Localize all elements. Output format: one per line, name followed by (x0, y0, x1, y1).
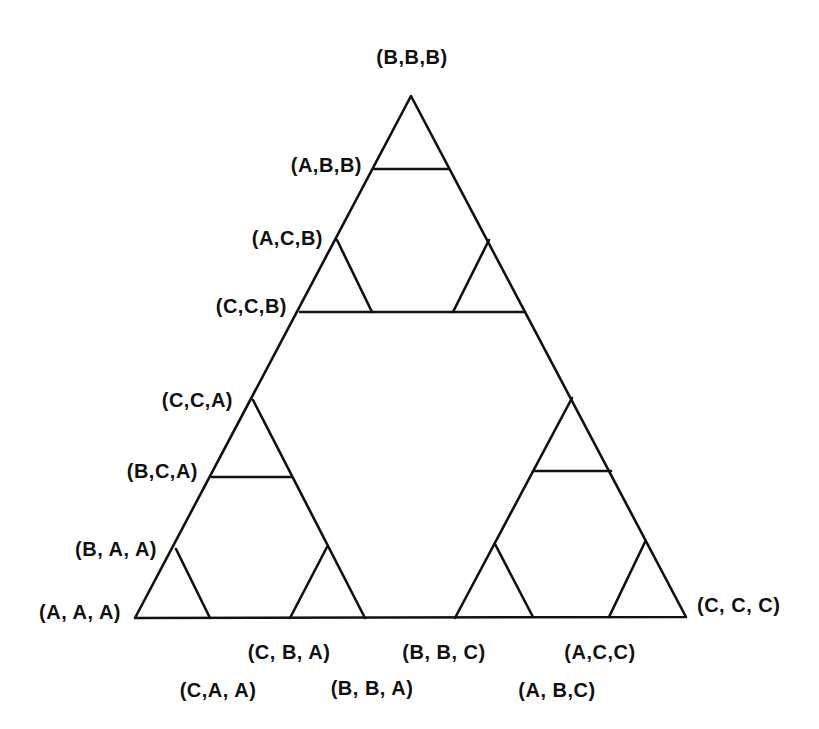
vertex-label-acb: (A,C,B) (252, 228, 323, 248)
outer-triangle (135, 96, 686, 618)
vertex-label-bba: (B, B, A) (331, 678, 414, 698)
segment-br-sub-left-side (455, 398, 572, 618)
vertex-label-acc: (A,C,C) (564, 642, 635, 662)
segment-bl-sub-right-side (253, 400, 365, 618)
vertex-label-cca: (C,C,A) (162, 390, 233, 410)
segment-top-left-small-right (337, 240, 372, 312)
vertex-label-ccc: (C, C, C) (697, 595, 780, 615)
vertex-label-baa: (B, A, A) (75, 539, 157, 559)
vertex-label-cba: (C, B, A) (248, 642, 331, 662)
segment-br-right-small-left (609, 542, 645, 617)
sierpinski-diagram (0, 0, 819, 729)
vertex-label-aaa: (A, A, A) (39, 602, 121, 622)
vertex-label-bbb: (B,B,B) (376, 47, 447, 67)
segment-top-right-small-left (453, 240, 489, 312)
vertex-label-caa: (C,A, A) (180, 680, 257, 700)
vertex-label-abb: (A,B,B) (291, 155, 362, 175)
segment-br-left-small-right (495, 544, 533, 617)
vertex-label-bbc: (B, B, C) (402, 642, 485, 662)
vertex-label-abc: (A, B,C) (518, 680, 595, 700)
inner-segments (176, 169, 645, 618)
vertex-label-ccb: (C,C,B) (216, 296, 287, 316)
segment-bl-left-small-right (176, 549, 210, 618)
segment-bl-right-small-left (290, 547, 327, 618)
vertex-label-bca: (B,C,A) (127, 461, 198, 481)
